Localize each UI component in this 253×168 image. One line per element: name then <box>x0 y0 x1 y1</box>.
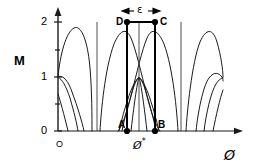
y-tick-label-0: 0 <box>41 125 47 136</box>
epsilon-label: ε <box>137 5 142 15</box>
point-label-B: B <box>158 120 165 130</box>
phi-star-asterisk: * <box>142 137 146 146</box>
curve-group-cell-1 <box>58 27 92 131</box>
phi-star-glyph: Ø <box>133 139 142 152</box>
plot-canvas <box>0 0 253 168</box>
curve-inner-lobe-right <box>204 78 223 131</box>
epsilon-arrowhead-left <box>122 8 129 13</box>
curve-upper-lobe-center-left <box>100 31 160 131</box>
point-label-D: D <box>116 17 123 27</box>
marker-point-D <box>124 19 130 25</box>
curve-group-cell-3 <box>186 32 223 132</box>
marker-point-C <box>152 19 158 25</box>
y-axis-arrowhead <box>55 7 62 16</box>
epsilon-arrowhead-right <box>153 8 160 13</box>
phi-star-label: Ø* <box>133 138 146 151</box>
y-axis-label: M <box>14 54 25 67</box>
asymptote-lines <box>97 22 181 131</box>
y-tick-label-2: 2 <box>41 16 47 27</box>
x-axis-label: Ø <box>224 148 235 162</box>
point-label-C: C <box>160 17 167 27</box>
curve-small-lobe-right <box>213 90 223 131</box>
axes <box>55 7 243 134</box>
magnetization-phase-figure: M 2 1 0 O A B C D ε Ø* Ø <box>0 0 253 168</box>
curve-mid-lobe-left <box>58 76 84 131</box>
point-label-A: A <box>118 120 125 130</box>
y-tick-label-1: 1 <box>41 71 47 82</box>
x-axis-arrowhead <box>234 128 243 134</box>
origin-label: O <box>56 140 63 149</box>
curve-small-lobe-left <box>58 94 68 131</box>
